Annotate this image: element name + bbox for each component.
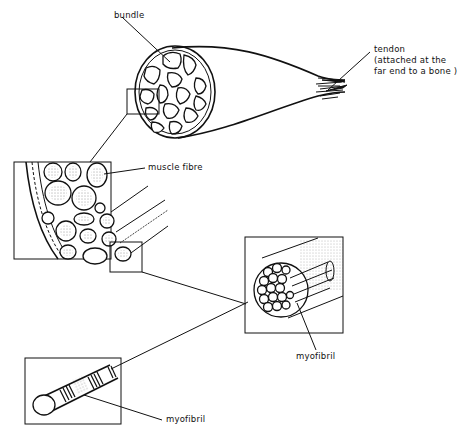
- tendon-leader: [328, 52, 370, 90]
- fibre-enlarged: [111, 237, 343, 369]
- label-muscle-fibre: muscle fibre: [148, 162, 203, 173]
- label-myofibril-fibre: myofibril: [296, 351, 335, 362]
- whole-muscle: [90, 17, 370, 162]
- label-bundle: bundle: [114, 10, 144, 21]
- myofibril-enlarged: [25, 358, 162, 424]
- bundle-leader: [122, 17, 170, 62]
- label-tendon: tendon: [374, 44, 405, 55]
- label-tendon-note-2: far end to a bone ): [374, 66, 457, 77]
- muscle-fibre-leader: [104, 168, 145, 174]
- label-tendon-note-1: (attached at the: [374, 55, 446, 66]
- label-myofibril-single: myofibril: [166, 414, 205, 425]
- bundle-enlarged: [14, 162, 246, 304]
- myofibril-leader-fibre: [297, 303, 316, 350]
- myofibril-leader-single: [84, 395, 162, 420]
- tendon: [316, 78, 347, 99]
